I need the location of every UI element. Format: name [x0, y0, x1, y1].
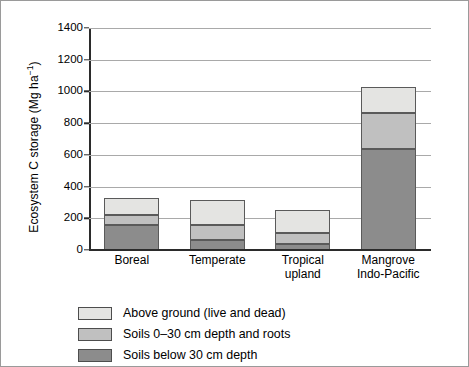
bar-segment[interactable] — [361, 149, 416, 250]
legend-item[interactable]: Above ground (live and dead) — [78, 304, 418, 322]
bar-segment[interactable] — [104, 198, 159, 215]
legend-swatch — [78, 349, 112, 362]
x-axis-line — [89, 249, 431, 251]
bar-tropical-upland[interactable] — [275, 28, 330, 250]
x-tick-label: Boreal — [89, 253, 175, 267]
x-tick-label-line: upland — [260, 267, 346, 281]
bar-boreal[interactable] — [104, 28, 159, 250]
x-tick-label-line: Tropical — [260, 253, 346, 267]
plot-area — [89, 28, 431, 250]
x-tick-label: MangroveIndo-Pacific — [346, 253, 432, 281]
legend-label: Soils below 30 cm depth — [123, 349, 257, 362]
x-axis-labels: BorealTemperateTropicaluplandMangroveInd… — [89, 253, 431, 289]
bar-segment[interactable] — [190, 200, 245, 225]
x-tick-label: Temperate — [175, 253, 261, 267]
y-tick-label: 200 — [31, 213, 83, 225]
y-tick-label: 800 — [31, 117, 83, 129]
x-tick-label-line: Temperate — [175, 253, 261, 267]
chart-legend: Above ground (live and dead)Soils 0–30 c… — [78, 304, 418, 367]
bar-mangrove-indo-pacific[interactable] — [361, 28, 416, 250]
y-tick-label: 1400 — [31, 22, 83, 34]
legend-swatch — [78, 307, 112, 320]
chart-figure: Ecosystem C storage (Mg ha−1) 0200400600… — [0, 0, 469, 367]
y-tick-label: 1200 — [31, 54, 83, 66]
bar-segment[interactable] — [104, 215, 159, 225]
bar-temperate[interactable] — [190, 28, 245, 250]
x-tick-label-line: Boreal — [89, 253, 175, 267]
bar-segment[interactable] — [190, 225, 245, 240]
legend-label: Above ground (live and dead) — [123, 307, 286, 320]
bar-segment[interactable] — [361, 113, 416, 149]
y-tick-label: 1000 — [31, 86, 83, 98]
legend-item[interactable]: Soils below 30 cm depth — [78, 346, 418, 364]
legend-item[interactable]: Soils 0–30 cm depth and roots — [78, 325, 418, 343]
bar-segment[interactable] — [275, 233, 330, 245]
bar-segment[interactable] — [104, 225, 159, 250]
y-axis-ticks: 0200400600800100012001400 — [1, 1, 87, 367]
bar-segment[interactable] — [361, 87, 416, 113]
x-tick-label: Tropicalupland — [260, 253, 346, 281]
legend-label: Soils 0–30 cm depth and roots — [123, 328, 290, 341]
y-tick-label: 0 — [31, 244, 83, 256]
x-tick-label-line: Mangrove — [346, 253, 432, 267]
x-tick-label-line: Indo-Pacific — [346, 267, 432, 281]
legend-swatch — [78, 328, 112, 341]
y-tick-label: 400 — [31, 181, 83, 193]
bar-segment[interactable] — [275, 210, 330, 232]
y-tick-label: 600 — [31, 149, 83, 161]
